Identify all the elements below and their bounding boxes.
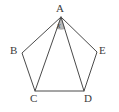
angle-variable-label-x: x <box>57 22 61 30</box>
vertex-label-c: C <box>30 93 37 104</box>
vertex-label-a: A <box>56 3 64 14</box>
vertex-label-e: E <box>99 45 106 56</box>
vertex-label-b: B <box>10 45 17 56</box>
pentagon-diagram-svg <box>0 0 119 112</box>
geometry-figure: A B C D E x <box>0 0 119 112</box>
vertex-label-d: D <box>84 93 92 104</box>
